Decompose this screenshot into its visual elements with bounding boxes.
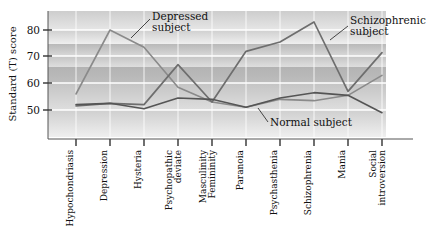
x-label-hysteria: Hysteria xyxy=(133,149,143,189)
schizophrenic-subject-label-line2: subject xyxy=(350,25,389,37)
x-axis-ticks xyxy=(76,139,382,146)
y-tick-label-70: 70 xyxy=(27,50,40,62)
x-axis-labels: Hypochondriasis Depression Hysteria Psyc… xyxy=(65,149,387,227)
depressed-subject-label-line2: subject xyxy=(152,21,191,33)
x-label-introversion-line2: introversion xyxy=(377,150,387,206)
x-label-schizophrenia: Schizophrenia xyxy=(303,149,313,215)
x-label-psychasthenia: Psychasthenia xyxy=(269,149,279,215)
y-tick-label-60: 60 xyxy=(27,77,40,89)
x-label-psychopathic-deviate-line2: deviate xyxy=(173,150,183,183)
x-label-depression: Depression xyxy=(99,150,109,201)
normal-subject-label-line1: Normal subject xyxy=(270,116,353,128)
x-label-femininity-line2: Femininity xyxy=(207,149,217,198)
y-axis-title: Standard (T) score xyxy=(7,26,18,121)
y-tick-label-50: 50 xyxy=(27,104,40,116)
x-label-paranoia: Paranoia xyxy=(235,149,245,190)
x-label-mania: Mania xyxy=(337,149,347,178)
mmpi-profile-chart: 80 70 60 50 Standard (T) score Hypochond… xyxy=(0,0,429,227)
y-tick-label-80: 80 xyxy=(27,24,40,36)
x-label-hypochondriasis: Hypochondriasis xyxy=(65,150,75,227)
